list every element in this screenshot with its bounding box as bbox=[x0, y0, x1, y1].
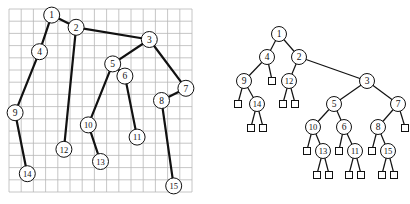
tree-node-4: 4 bbox=[32, 44, 48, 60]
node-label: 12 bbox=[285, 76, 294, 86]
tree-node-3: 3 bbox=[360, 74, 375, 89]
node-label: 4 bbox=[265, 52, 270, 62]
node-label: 1 bbox=[277, 29, 282, 39]
node-label: 2 bbox=[74, 23, 79, 33]
node-label: 12 bbox=[60, 145, 69, 155]
tree-node-6: 6 bbox=[337, 120, 352, 135]
tree-node-12: 12 bbox=[56, 141, 72, 157]
tree-node-14: 14 bbox=[250, 97, 265, 112]
external-node-square bbox=[336, 148, 343, 155]
tree-edge bbox=[299, 57, 367, 81]
external-node-square bbox=[326, 172, 333, 179]
tree-node-8: 8 bbox=[154, 93, 170, 109]
node-label: 2 bbox=[297, 52, 302, 62]
external-node-square bbox=[269, 78, 276, 85]
tree-node-2: 2 bbox=[68, 19, 84, 35]
left-tree-nodes: 123456789101112131415 bbox=[7, 7, 194, 194]
tree-node-7: 7 bbox=[178, 80, 194, 96]
tree-node-8: 8 bbox=[371, 120, 386, 135]
tree-node-15: 15 bbox=[381, 144, 396, 159]
external-node-square bbox=[314, 172, 321, 179]
right-tree-nodes: 142912314571068131115 bbox=[237, 27, 406, 159]
external-node-square bbox=[391, 172, 398, 179]
node-label: 14 bbox=[253, 99, 262, 109]
node-label: 10 bbox=[84, 120, 93, 130]
tree-node-10: 10 bbox=[80, 117, 96, 133]
node-label: 6 bbox=[342, 122, 347, 132]
tree-node-11: 11 bbox=[348, 144, 363, 159]
tree-diagram-canvas: 123456789101112131415 142912314571068131… bbox=[0, 0, 410, 204]
external-node-square bbox=[402, 125, 409, 132]
node-label: 15 bbox=[169, 181, 178, 191]
node-label: 8 bbox=[376, 122, 381, 132]
external-node-square bbox=[260, 125, 267, 132]
tree-node-4: 4 bbox=[260, 50, 275, 65]
external-node-square bbox=[292, 101, 299, 108]
external-node-square bbox=[358, 172, 365, 179]
node-label: 14 bbox=[23, 169, 32, 179]
external-node-square bbox=[369, 148, 376, 155]
external-node-square bbox=[304, 148, 311, 155]
tree-node-9: 9 bbox=[7, 105, 23, 121]
external-node-square bbox=[379, 172, 386, 179]
tree-node-7: 7 bbox=[391, 97, 406, 112]
tree-node-9: 9 bbox=[237, 74, 252, 89]
tree-node-11: 11 bbox=[129, 129, 145, 145]
tree-node-13: 13 bbox=[93, 154, 109, 170]
node-label: 11 bbox=[133, 132, 141, 142]
node-label: 15 bbox=[384, 146, 393, 156]
node-label: 7 bbox=[184, 84, 189, 94]
external-node-square bbox=[346, 172, 353, 179]
external-node-square bbox=[280, 101, 287, 108]
tree-node-3: 3 bbox=[141, 32, 157, 48]
tree-node-12: 12 bbox=[282, 74, 297, 89]
tree-node-5: 5 bbox=[327, 97, 342, 112]
node-label: 5 bbox=[332, 99, 337, 109]
node-label: 9 bbox=[13, 108, 18, 118]
node-label: 9 bbox=[242, 76, 247, 86]
tree-node-14: 14 bbox=[19, 166, 35, 182]
tree-node-1: 1 bbox=[272, 27, 287, 42]
node-label: 10 bbox=[309, 122, 318, 132]
tree-node-15: 15 bbox=[166, 178, 182, 194]
node-label: 3 bbox=[365, 76, 370, 86]
node-label: 1 bbox=[49, 10, 54, 20]
node-label: 11 bbox=[351, 146, 359, 156]
node-label: 6 bbox=[123, 71, 128, 81]
tree-node-1: 1 bbox=[44, 7, 60, 23]
tree-node-13: 13 bbox=[316, 144, 331, 159]
node-label: 5 bbox=[110, 59, 115, 69]
tree-node-10: 10 bbox=[306, 120, 321, 135]
tree-node-5: 5 bbox=[105, 56, 121, 72]
node-label: 4 bbox=[37, 47, 42, 57]
node-label: 3 bbox=[147, 35, 152, 45]
node-label: 13 bbox=[96, 157, 105, 167]
node-label: 8 bbox=[159, 96, 164, 106]
external-node-square bbox=[235, 101, 242, 108]
tree-node-6: 6 bbox=[117, 68, 133, 84]
node-label: 13 bbox=[319, 146, 328, 156]
tree-node-2: 2 bbox=[292, 50, 307, 65]
external-node-square bbox=[248, 125, 255, 132]
node-label: 7 bbox=[396, 99, 401, 109]
